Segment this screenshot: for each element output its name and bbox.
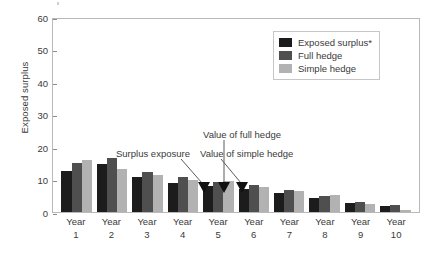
x-tick-label-line: Year: [378, 216, 414, 229]
legend-item-simple-hedge: Simple hedge: [279, 62, 372, 75]
annotation-surplus-exposure: Surplus exposure: [116, 148, 190, 159]
legend-swatch-simple-hedge: [279, 64, 292, 73]
bar: [72, 163, 82, 212]
y-tick-label: 30: [18, 110, 48, 121]
bar: [345, 203, 355, 212]
chart-figure: Exposed surplus 0102030405060 Year1Year2…: [0, 0, 439, 280]
bar-group-inner: [168, 19, 198, 212]
bar: [259, 187, 269, 212]
bar: [284, 190, 294, 212]
bar: [319, 196, 329, 212]
x-tick-label-line: 5: [200, 229, 236, 242]
x-tick-label-line: 4: [165, 229, 201, 242]
x-tick-label: Year7: [272, 216, 308, 241]
y-tick-mark: [53, 214, 57, 215]
x-tick-label-line: Year: [58, 216, 94, 229]
legend-item-exposed-surplus: Exposed surplus*: [279, 36, 372, 49]
bar-group: [130, 19, 165, 212]
x-tick-label: Year2: [94, 216, 130, 241]
x-tick-label-line: Year: [165, 216, 201, 229]
x-axis-labels: Year1Year2Year3Year4Year5Year6Year7Year8…: [52, 216, 420, 241]
x-tick-label-line: 2: [94, 229, 130, 242]
y-tick-label: 10: [18, 175, 48, 186]
x-tick-label: Year5: [200, 216, 236, 241]
bar: [142, 172, 152, 212]
x-tick-label: Year10: [378, 216, 414, 241]
legend-label-exposed-surplus: Exposed surplus*: [298, 37, 372, 48]
x-tick-label-line: Year: [94, 216, 130, 229]
x-tick-label-line: Year: [200, 216, 236, 229]
bar: [400, 210, 410, 212]
bar: [365, 204, 375, 212]
x-tick-label: Year9: [343, 216, 379, 241]
bar: [380, 206, 390, 212]
legend-label-full-hedge: Full hedge: [298, 50, 342, 61]
bar: [355, 202, 365, 212]
x-tick-label-line: 8: [307, 229, 343, 242]
bar: [178, 177, 188, 212]
bar: [82, 160, 92, 212]
x-tick-label-line: Year: [272, 216, 308, 229]
legend-swatch-full-hedge: [279, 51, 292, 60]
bar: [390, 205, 400, 212]
x-tick-label-line: 6: [236, 229, 272, 242]
bar: [107, 158, 117, 212]
legend-swatch-exposed-surplus: [279, 38, 292, 47]
bar-group: [236, 19, 271, 212]
x-tick-label: Year6: [236, 216, 272, 241]
bar: [188, 180, 198, 212]
chart-legend: Exposed surplus* Full hedge Simple hedge: [273, 31, 380, 80]
x-tick-label: Year8: [307, 216, 343, 241]
bar-group: [59, 19, 94, 212]
bar: [153, 175, 163, 212]
bar: [294, 191, 304, 212]
x-tick-label: Year4: [165, 216, 201, 241]
y-axis-label: Exposed surplus: [19, 48, 30, 148]
bar: [97, 164, 107, 212]
stray-mark: [57, 2, 59, 5]
bar: [213, 182, 223, 212]
bar-group: [94, 19, 129, 212]
x-tick-label: Year1: [58, 216, 94, 241]
annotation-value-full-hedge: Value of full hedge: [203, 129, 281, 140]
annotation-value-simple-hedge: Value of simple hedge: [200, 148, 293, 159]
bar: [239, 189, 249, 212]
x-tick-label-line: 3: [129, 229, 165, 242]
bar-group-inner: [239, 19, 269, 212]
bar: [330, 195, 340, 212]
bar: [309, 198, 319, 212]
bar: [249, 185, 259, 212]
bar-group: [378, 19, 413, 212]
bar: [117, 169, 127, 212]
legend-label-simple-hedge: Simple hedge: [298, 63, 356, 74]
x-tick-label-line: 7: [272, 229, 308, 242]
bar-group-inner: [97, 19, 127, 212]
legend-item-full-hedge: Full hedge: [279, 49, 372, 62]
bar: [203, 186, 213, 212]
x-tick-label-line: 1: [58, 229, 94, 242]
bar: [223, 181, 233, 212]
bar-group-inner: [132, 19, 162, 212]
bar: [168, 183, 178, 212]
bar-group-inner: [203, 19, 233, 212]
bar-group-inner: [380, 19, 410, 212]
bar-group: [201, 19, 236, 212]
bar-group: [165, 19, 200, 212]
y-tick-label: 50: [18, 45, 48, 56]
bar: [61, 171, 71, 212]
bar-group-inner: [61, 19, 91, 212]
x-tick-label-line: Year: [129, 216, 165, 229]
x-tick-label: Year3: [129, 216, 165, 241]
x-tick-label-line: Year: [307, 216, 343, 229]
y-tick-label: 20: [18, 143, 48, 154]
bar: [274, 193, 284, 213]
y-tick-label: 60: [18, 13, 48, 24]
x-tick-label-line: 9: [343, 229, 379, 242]
y-tick-label: 0: [18, 208, 48, 219]
y-tick-label: 40: [18, 78, 48, 89]
bar: [132, 177, 142, 212]
x-tick-label-line: Year: [236, 216, 272, 229]
x-tick-label-line: Year: [343, 216, 379, 229]
x-tick-label-line: 10: [378, 229, 414, 242]
